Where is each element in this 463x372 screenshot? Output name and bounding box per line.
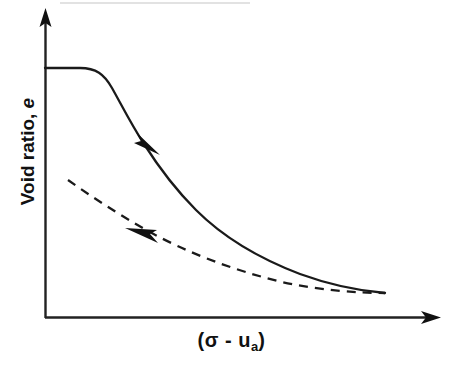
x-axis-label-sigma: σ	[205, 329, 219, 351]
x-axis-label-u: u	[238, 329, 251, 351]
y-axis-label: Void ratio, e	[18, 77, 37, 227]
loading-curve	[45, 68, 385, 293]
unloading-direction-arrow-icon	[125, 228, 158, 243]
x-axis-label: (σ - ua)	[0, 330, 463, 353]
plot-canvas	[0, 0, 463, 372]
x-axis-label-minus: -	[219, 329, 238, 351]
figure-container: Void ratio, e (σ - ua)	[0, 0, 463, 372]
y-axis-label-symbol: e	[17, 98, 38, 109]
y-axis-label-prefix: Void ratio,	[17, 108, 38, 205]
x-axis-label-open-paren: (	[198, 329, 205, 351]
x-axis-label-close-paren: )	[258, 329, 265, 351]
